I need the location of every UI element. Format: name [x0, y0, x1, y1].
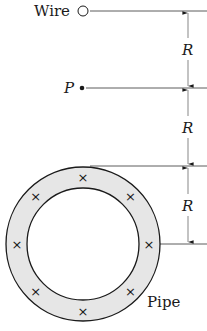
current-into-page-icon: ×: [12, 237, 23, 252]
current-into-page-icon: ×: [125, 189, 136, 204]
dimension-label-r1: R: [181, 41, 193, 59]
current-into-page-icon: ×: [30, 189, 41, 204]
current-into-page-icon: ×: [78, 304, 89, 319]
pipe-label: Pipe: [147, 293, 180, 311]
dimension-label-r3: R: [181, 197, 193, 215]
diagram-canvas: Wire P R R R × × × × × × × × Pipe: [0, 0, 207, 331]
point-p-label: P: [63, 79, 75, 97]
current-into-page-icon: ×: [30, 284, 41, 299]
wire-icon: [78, 6, 88, 16]
pipe-cross-section: [6, 167, 160, 321]
current-into-page-icon: ×: [125, 284, 136, 299]
point-p-dot-icon: [80, 86, 85, 91]
wire-label: Wire: [34, 2, 70, 20]
dimension-label-r2: R: [181, 119, 193, 137]
current-into-page-icon: ×: [144, 237, 155, 252]
current-into-page-icon: ×: [78, 170, 89, 185]
